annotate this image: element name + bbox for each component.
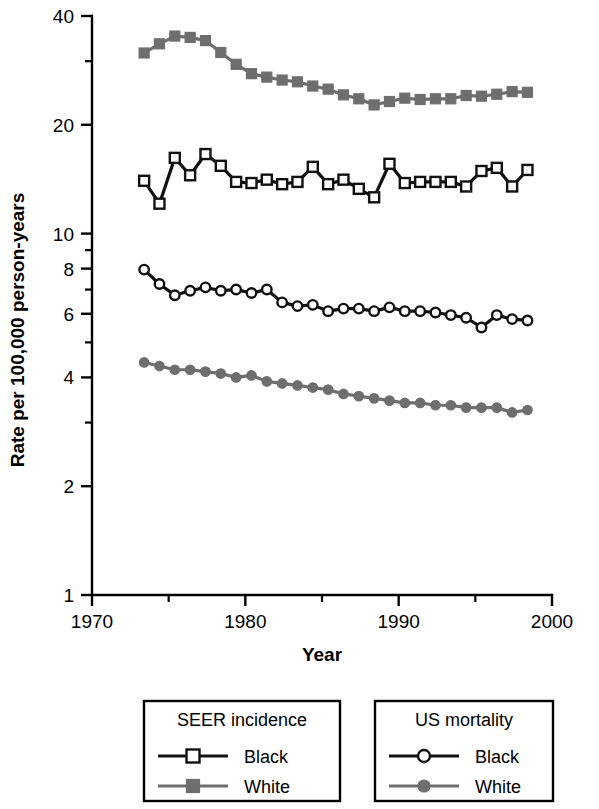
data-point-marker	[477, 403, 487, 413]
data-point-marker	[246, 178, 256, 188]
data-point-marker	[231, 177, 241, 187]
data-point-marker	[277, 298, 287, 308]
data-point-marker	[461, 181, 471, 191]
data-point-marker	[385, 396, 395, 406]
data-point-marker	[308, 383, 318, 393]
data-point-marker	[461, 91, 471, 101]
data-point-marker	[354, 94, 364, 104]
data-point-marker	[369, 100, 379, 110]
data-point-marker	[400, 306, 410, 316]
data-point-marker	[354, 184, 364, 194]
data-point-marker	[185, 32, 195, 42]
data-point-marker	[293, 381, 303, 391]
data-point-marker	[476, 91, 486, 101]
data-point-marker	[446, 310, 456, 320]
data-point-marker	[262, 377, 272, 387]
data-point-marker	[339, 304, 349, 314]
data-point-marker	[216, 286, 226, 296]
data-point-marker	[277, 379, 287, 389]
y-axis-title: Rate per 100,000 person-years	[7, 193, 28, 468]
series-seer-incidence-black	[139, 149, 532, 209]
data-point-marker	[247, 288, 257, 298]
data-point-marker	[139, 48, 149, 58]
x-tick-label: 1980	[224, 611, 266, 632]
data-series-layer	[139, 31, 532, 417]
data-point-marker	[323, 84, 333, 94]
data-point-marker	[139, 176, 149, 186]
data-point-marker	[201, 367, 211, 377]
data-point-marker	[154, 199, 164, 209]
data-point-marker	[231, 285, 241, 295]
data-point-marker	[415, 306, 425, 316]
data-point-marker	[216, 48, 226, 58]
data-point-marker	[492, 310, 502, 320]
y-tick-label: 1	[63, 585, 74, 606]
data-point-marker	[522, 87, 532, 97]
data-point-marker	[246, 69, 256, 79]
data-point-marker	[418, 750, 430, 762]
data-point-marker	[446, 177, 456, 187]
data-point-marker	[338, 90, 348, 100]
data-point-marker	[400, 178, 410, 188]
series-line	[144, 154, 527, 204]
data-point-marker	[139, 358, 149, 368]
data-point-marker	[201, 283, 211, 293]
axis-spine	[92, 16, 552, 595]
data-point-marker	[369, 394, 379, 404]
data-point-marker	[293, 301, 303, 311]
data-point-marker	[155, 279, 165, 289]
data-point-marker	[323, 385, 333, 395]
legend-title: US mortality	[415, 710, 513, 730]
data-point-marker	[461, 313, 471, 323]
data-point-marker	[507, 408, 517, 418]
data-point-marker	[185, 170, 195, 180]
data-point-marker	[431, 400, 441, 410]
data-point-marker	[231, 373, 241, 383]
data-point-marker	[185, 365, 195, 375]
data-point-marker	[400, 398, 410, 408]
series-us-mortality-white	[139, 358, 532, 417]
series-us-mortality-black	[139, 265, 532, 332]
y-tick-label: 4	[63, 367, 74, 388]
data-point-marker	[415, 94, 425, 104]
data-point-marker	[384, 159, 394, 169]
data-point-marker	[476, 166, 486, 176]
y-tick-label: 10	[53, 224, 74, 245]
data-point-marker	[507, 181, 517, 191]
series-seer-incidence-white	[139, 31, 532, 110]
data-point-marker	[400, 93, 410, 103]
y-axis-title-text: Rate per 100,000 person-years	[7, 193, 28, 468]
data-point-marker	[262, 285, 272, 295]
y-tick-label: 40	[53, 6, 74, 27]
data-point-marker	[523, 316, 533, 326]
data-point-marker	[369, 306, 379, 316]
legend-layer: SEER incidenceBlackWhiteUS mortalityBlac…	[144, 701, 553, 801]
data-point-marker	[384, 96, 394, 106]
tick-marks	[81, 16, 552, 606]
data-point-marker	[185, 286, 195, 296]
data-point-marker	[385, 303, 395, 313]
data-point-marker	[492, 89, 502, 99]
data-point-marker	[308, 162, 318, 172]
data-point-marker	[338, 175, 348, 185]
data-point-marker	[507, 87, 517, 97]
data-point-marker	[415, 177, 425, 187]
legend-entry-label: Black	[475, 747, 520, 767]
data-point-marker	[170, 153, 180, 163]
data-point-marker	[323, 306, 333, 316]
chart-svg: Rate per 100,000 person-years 4020108642…	[0, 0, 599, 809]
data-point-marker	[430, 177, 440, 187]
data-point-marker	[200, 36, 210, 46]
y-tick-label: 2	[63, 476, 74, 497]
data-point-marker	[216, 369, 226, 379]
data-point-marker	[187, 750, 200, 763]
legend-entry-label: White	[475, 777, 521, 797]
data-point-marker	[200, 149, 210, 159]
data-point-marker	[461, 403, 471, 413]
data-point-marker	[247, 371, 257, 381]
y-tick-label: 8	[63, 259, 74, 280]
data-point-marker	[522, 165, 532, 175]
data-point-marker	[139, 265, 149, 275]
legend-entry-label: White	[244, 777, 290, 797]
data-point-marker	[292, 177, 302, 187]
